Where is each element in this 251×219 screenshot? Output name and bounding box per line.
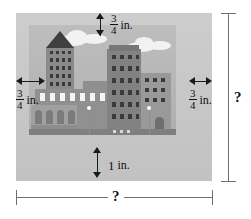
total-width-tick-right xyxy=(212,190,213,205)
left-margin-arrow-head-right xyxy=(39,77,45,85)
total-height-tick-top xyxy=(221,13,236,14)
left-margin-unit: in. xyxy=(24,94,39,106)
right-margin-fraction: 3 4 xyxy=(189,88,197,111)
bottom-margin-unit: in. xyxy=(115,159,130,171)
street-lamp-icon xyxy=(87,106,91,110)
street-lamp-icon xyxy=(149,109,150,135)
tower-roof-icon xyxy=(46,31,74,48)
total-height-label: ? xyxy=(234,90,242,105)
right-margin-unit: in. xyxy=(197,94,212,106)
top-margin-arrow-head-down xyxy=(96,30,104,36)
top-margin-unit: in. xyxy=(118,19,133,31)
right-margin-arrow-head-left xyxy=(189,77,195,85)
total-width-tick-left xyxy=(16,190,17,205)
cityscape-illustration xyxy=(29,25,176,135)
left-margin-arrow-head-left xyxy=(16,77,22,85)
total-width-label: ? xyxy=(108,189,124,204)
street-lamp-icon xyxy=(89,109,90,135)
top-margin-label: 3 4 in. xyxy=(110,13,133,36)
right-margin-arrow-head-right xyxy=(206,77,212,85)
top-margin-fraction: 3 4 xyxy=(110,13,118,36)
right-margin-label: 3 4 in. xyxy=(189,88,212,111)
bottom-margin-arrow-head-down xyxy=(93,172,101,178)
bottom-margin-arrow-head-up xyxy=(93,147,101,153)
left-margin-fraction: 3 4 xyxy=(16,88,24,111)
total-height-dimension-line xyxy=(228,13,229,182)
bottom-margin-label: 1in. xyxy=(108,156,130,172)
building-right-cap xyxy=(109,45,139,51)
diagram-canvas: 3 4 in. 3 4 in. 3 4 in. 1in. ? ? xyxy=(0,0,251,219)
ground-strip xyxy=(29,129,176,135)
top-margin-arrow-head-up xyxy=(96,13,104,19)
total-height-tick-bottom xyxy=(221,181,236,182)
left-margin-label: 3 4 in. xyxy=(16,88,39,111)
cloud-icon xyxy=(149,41,171,50)
street-lamp-icon xyxy=(147,106,151,110)
